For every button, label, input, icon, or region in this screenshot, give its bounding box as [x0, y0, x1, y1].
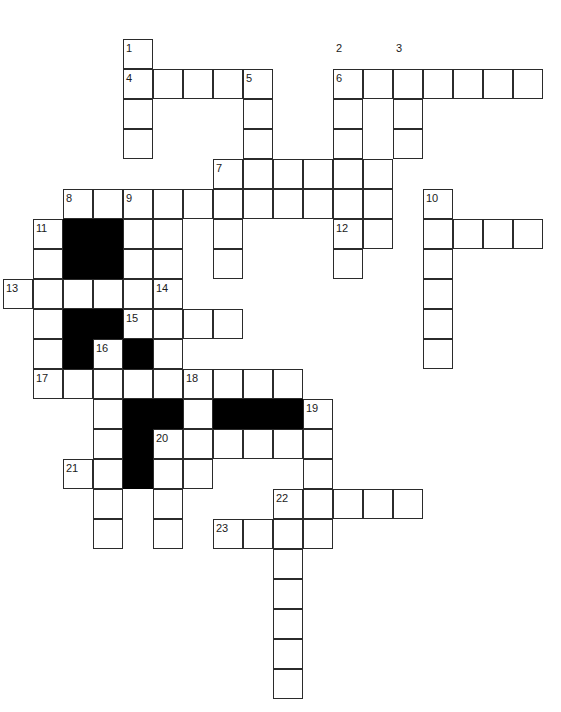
crossword-cell[interactable]: [183, 369, 213, 399]
crossword-cell[interactable]: [303, 459, 333, 489]
crossword-cell[interactable]: [63, 279, 93, 309]
crossword-cell[interactable]: [393, 489, 423, 519]
crossword-cell[interactable]: [243, 369, 273, 399]
crossword-cell[interactable]: [63, 459, 93, 489]
crossword-cell[interactable]: [93, 399, 123, 429]
crossword-cell[interactable]: [273, 189, 303, 219]
crossword-cell[interactable]: [423, 309, 453, 339]
crossword-cell[interactable]: [33, 249, 63, 279]
crossword-cell[interactable]: [273, 669, 303, 699]
crossword-cell[interactable]: [243, 519, 273, 549]
crossword-cell[interactable]: [423, 339, 453, 369]
crossword-cell[interactable]: [93, 369, 123, 399]
crossword-cell[interactable]: [123, 69, 153, 99]
crossword-cell[interactable]: [243, 129, 273, 159]
crossword-cell[interactable]: [273, 579, 303, 609]
crossword-cell[interactable]: [513, 219, 543, 249]
crossword-cell[interactable]: [123, 249, 153, 279]
crossword-cell[interactable]: [423, 249, 453, 279]
crossword-cell[interactable]: [153, 339, 183, 369]
crossword-cell[interactable]: [423, 279, 453, 309]
crossword-cell[interactable]: [183, 459, 213, 489]
crossword-cell[interactable]: [213, 519, 243, 549]
crossword-cell[interactable]: [153, 219, 183, 249]
crossword-cell[interactable]: [33, 369, 63, 399]
crossword-cell[interactable]: [333, 189, 363, 219]
crossword-cell[interactable]: [153, 489, 183, 519]
crossword-cell[interactable]: [183, 429, 213, 459]
crossword-cell[interactable]: [153, 519, 183, 549]
crossword-cell[interactable]: [33, 219, 63, 249]
crossword-cell[interactable]: [423, 189, 453, 219]
crossword-cell[interactable]: [273, 159, 303, 189]
crossword-cell[interactable]: [333, 249, 363, 279]
crossword-cell[interactable]: [93, 459, 123, 489]
crossword-cell[interactable]: [363, 189, 393, 219]
crossword-cell[interactable]: [333, 69, 363, 99]
crossword-cell[interactable]: [123, 99, 153, 129]
crossword-cell[interactable]: [153, 309, 183, 339]
crossword-cell[interactable]: [33, 339, 63, 369]
crossword-cell[interactable]: [273, 429, 303, 459]
crossword-cell[interactable]: [123, 39, 153, 69]
crossword-cell[interactable]: [273, 519, 303, 549]
crossword-cell[interactable]: [153, 279, 183, 309]
crossword-cell[interactable]: [243, 429, 273, 459]
crossword-cell[interactable]: [423, 69, 453, 99]
crossword-cell[interactable]: [363, 159, 393, 189]
crossword-cell[interactable]: [453, 219, 483, 249]
crossword-cell[interactable]: [123, 219, 153, 249]
crossword-cell[interactable]: [213, 429, 243, 459]
crossword-cell[interactable]: [243, 159, 273, 189]
crossword-cell[interactable]: [123, 309, 153, 339]
crossword-cell[interactable]: [93, 489, 123, 519]
crossword-cell[interactable]: [393, 69, 423, 99]
crossword-cell[interactable]: [33, 279, 63, 309]
crossword-cell[interactable]: [333, 129, 363, 159]
crossword-cell[interactable]: [123, 129, 153, 159]
crossword-cell[interactable]: [363, 489, 393, 519]
crossword-cell[interactable]: [93, 519, 123, 549]
crossword-cell[interactable]: [273, 489, 303, 519]
crossword-cell[interactable]: [213, 369, 243, 399]
crossword-cell[interactable]: [243, 69, 273, 99]
crossword-cell[interactable]: [153, 429, 183, 459]
crossword-cell[interactable]: [423, 219, 453, 249]
crossword-cell[interactable]: [183, 189, 213, 219]
crossword-cell[interactable]: [213, 189, 243, 219]
crossword-cell[interactable]: [333, 99, 363, 129]
crossword-cell[interactable]: [333, 219, 363, 249]
crossword-cell[interactable]: [63, 369, 93, 399]
crossword-cell[interactable]: [213, 309, 243, 339]
crossword-cell[interactable]: [213, 69, 243, 99]
crossword-cell[interactable]: [303, 189, 333, 219]
crossword-cell[interactable]: [273, 369, 303, 399]
crossword-cell[interactable]: [453, 69, 483, 99]
crossword-cell[interactable]: [243, 99, 273, 129]
crossword-cell[interactable]: [123, 189, 153, 219]
crossword-cell[interactable]: [183, 69, 213, 99]
crossword-cell[interactable]: [93, 189, 123, 219]
crossword-cell[interactable]: [93, 339, 123, 369]
crossword-cell[interactable]: [303, 519, 333, 549]
crossword-cell[interactable]: [303, 159, 333, 189]
crossword-cell[interactable]: [153, 189, 183, 219]
crossword-cell[interactable]: [273, 549, 303, 579]
crossword-cell[interactable]: [273, 609, 303, 639]
crossword-cell[interactable]: [183, 399, 213, 429]
crossword-cell[interactable]: [393, 99, 423, 129]
crossword-cell[interactable]: [393, 129, 423, 159]
crossword-cell[interactable]: [3, 279, 33, 309]
crossword-cell[interactable]: [303, 429, 333, 459]
crossword-cell[interactable]: [213, 249, 243, 279]
crossword-cell[interactable]: [483, 219, 513, 249]
crossword-cell[interactable]: [153, 249, 183, 279]
crossword-cell[interactable]: [513, 69, 543, 99]
crossword-cell[interactable]: [363, 219, 393, 249]
crossword-cell[interactable]: [153, 69, 183, 99]
crossword-cell[interactable]: [333, 159, 363, 189]
crossword-cell[interactable]: [213, 159, 243, 189]
crossword-cell[interactable]: [153, 369, 183, 399]
crossword-cell[interactable]: [333, 489, 363, 519]
crossword-cell[interactable]: [123, 279, 153, 309]
